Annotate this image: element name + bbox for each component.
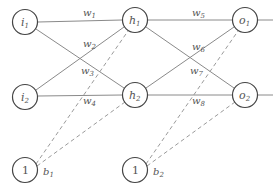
node-bias1: 1 <box>13 158 38 183</box>
edge-w4 <box>38 95 122 96</box>
weight-label-w8: w8 <box>192 95 206 108</box>
svg-text:1: 1 <box>22 164 29 177</box>
node-i2: i2 <box>13 85 38 110</box>
weight-label-w4: w4 <box>83 95 96 108</box>
node-o1: o1 <box>233 8 258 33</box>
edge-w1 <box>38 20 122 22</box>
bias2-o2-edge <box>147 102 235 166</box>
hidden-output-edges <box>146 20 234 95</box>
node-h2: h2 <box>123 83 148 108</box>
bias1-h1-edge <box>36 31 128 164</box>
bias-label-b1: b1 <box>43 166 54 179</box>
weight-label-w7: w7 <box>190 65 204 78</box>
neural-network-diagram: i1 i2 h1 h2 o1 o2 1 1 w1 w2 w3 w4 w5 w6 … <box>0 0 273 193</box>
input-hidden-edges <box>36 20 124 96</box>
node-i1: i1 <box>13 10 38 35</box>
node-bias2: 1 <box>123 158 148 183</box>
node-h1: h1 <box>123 8 148 33</box>
weight-label-w6: w6 <box>192 41 206 54</box>
svg-text:1: 1 <box>132 164 139 177</box>
weight-label-w1: w1 <box>83 7 96 20</box>
edge-w2 <box>36 27 124 90</box>
bias1-h2-edge <box>37 102 125 166</box>
node-o2: o2 <box>233 83 258 108</box>
weight-label-w5: w5 <box>192 7 206 20</box>
bias-label-b2: b2 <box>153 166 164 179</box>
weight-label-w2: w2 <box>83 38 97 51</box>
